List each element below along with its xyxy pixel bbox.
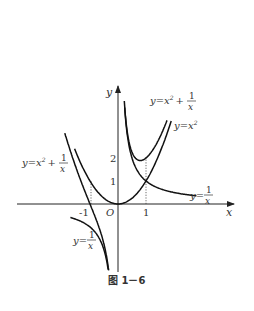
svg-text:1: 1 — [189, 91, 195, 101]
label-sum-left: y=x2+ 1 x — [21, 153, 68, 174]
label-sum-right: y=x2+ 1 x — [149, 91, 196, 112]
x-axis-label: x — [226, 206, 233, 219]
svg-text:y=x2: y=x2 — [173, 119, 198, 131]
label-square: y=x2 — [173, 119, 198, 131]
svg-text:y=: y= — [72, 235, 87, 246]
x-tick-neg1: -1 — [79, 207, 89, 218]
x-tick-1: 1 — [143, 207, 149, 218]
svg-text:x: x — [60, 164, 65, 174]
y-tick-1: 1 — [110, 176, 116, 187]
y-axis-label: y — [105, 86, 113, 99]
label-recip-left: y= 1 x — [72, 230, 96, 251]
y-tick-2: 2 — [110, 153, 116, 164]
svg-text:x: x — [88, 241, 93, 251]
svg-text:1: 1 — [206, 185, 212, 195]
curve-x-2-branch-0 — [75, 121, 172, 204]
svg-text:y=: y= — [189, 190, 204, 201]
label-recip-right: y= 1 x — [189, 185, 213, 206]
svg-text:1: 1 — [89, 230, 95, 240]
origin-label: O — [106, 207, 114, 218]
figure-caption: 图 1－6 — [108, 275, 145, 286]
svg-text:y=x2+: y=x2+ — [149, 94, 184, 106]
svg-text:x: x — [205, 196, 210, 206]
figure-canvas: y x O -1 1 1 2 y=x2+ 1 x y=x2 y=x2+ 1 x … — [0, 0, 254, 311]
svg-text:1: 1 — [61, 153, 67, 163]
svg-text:x: x — [188, 102, 193, 112]
curve-x-2-1-x-branch-0 — [65, 133, 109, 270]
svg-text:y=x2+: y=x2+ — [21, 156, 56, 168]
